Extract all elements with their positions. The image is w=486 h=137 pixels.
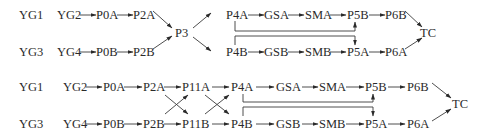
- arrow: [432, 83, 451, 98]
- link-p4b-to-p5a: [243, 107, 373, 116]
- node-p0b: P0B: [103, 117, 125, 131]
- node-p2a: P2A: [143, 80, 165, 94]
- row-label-yg1: YG1: [19, 8, 43, 22]
- node-p11a: P11A: [182, 80, 210, 94]
- node-p5a: P5A: [347, 45, 369, 59]
- link-p4a-to-p5b: [235, 21, 355, 31]
- node-p6a: P6A: [407, 117, 429, 131]
- arrow: [153, 11, 172, 28]
- node-gsa: GSA: [276, 80, 301, 94]
- node-p5b: P5B: [365, 80, 387, 94]
- process-flow-diagrams: YG1 YG3 YG2 P0A P2A YG4 P0B P2B P3 P4A G…: [0, 0, 486, 137]
- node-gsb: GSB: [276, 117, 300, 131]
- node-p2b: P2B: [133, 45, 155, 59]
- link-p4a-to-p5b: [243, 94, 373, 102]
- node-p2b: P2B: [143, 117, 165, 131]
- node-p6a: P6A: [385, 45, 407, 59]
- node-p0b: P0B: [96, 45, 118, 59]
- node-p6b: P6B: [385, 8, 407, 22]
- node-sma: SMA: [319, 80, 346, 94]
- arrow: [432, 109, 451, 121]
- node-p0a: P0A: [103, 80, 125, 94]
- node-p5b: P5B: [347, 8, 369, 22]
- arrow: [193, 13, 211, 28]
- node-p6b: P6B: [407, 80, 429, 94]
- diagram-2: YG1 YG3 YG2 P0A P2A P11A P4A GSA SMA P5B…: [19, 80, 468, 131]
- node-yg2: YG2: [57, 8, 81, 22]
- node-smb: SMB: [305, 45, 331, 59]
- node-p4b: P4B: [231, 117, 253, 131]
- row-label-yg3: YG3: [19, 117, 43, 131]
- arrow: [405, 11, 422, 27]
- node-yg4: YG4: [57, 45, 82, 59]
- diagram-1: YG1 YG3 YG2 P0A P2A YG4 P0B P2B P3 P4A G…: [19, 8, 436, 59]
- arrow: [153, 36, 172, 49]
- node-p5a: P5A: [365, 117, 387, 131]
- node-yg2: YG2: [63, 80, 87, 94]
- node-p4a: P4A: [231, 80, 253, 94]
- row-label-yg3: YG3: [19, 45, 43, 59]
- node-gsa: GSA: [264, 8, 289, 22]
- node-smb: SMB: [319, 117, 345, 131]
- arrow: [193, 37, 211, 51]
- node-p2a: P2A: [133, 8, 155, 22]
- node-p11b: P11B: [182, 117, 209, 131]
- node-tc: TC: [452, 97, 468, 111]
- node-tc: TC: [420, 26, 436, 40]
- node-p3: P3: [175, 26, 188, 40]
- node-sma: SMA: [305, 8, 332, 22]
- row-label-yg1: YG1: [19, 80, 43, 94]
- node-p4b: P4B: [226, 45, 248, 59]
- node-p4a: P4A: [226, 8, 248, 22]
- link-p4b-to-p5a: [235, 36, 355, 45]
- node-yg4: YG4: [63, 117, 88, 131]
- node-p0a: P0A: [96, 8, 118, 22]
- node-gsb: GSB: [264, 45, 288, 59]
